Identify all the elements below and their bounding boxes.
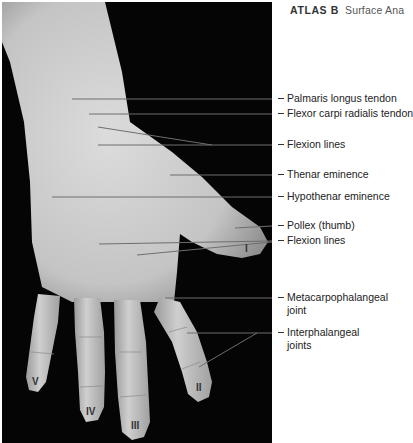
leader-tick: [278, 225, 284, 226]
page-header: ATLAS BSurface Ana: [290, 4, 404, 16]
finger-numeral-iv: IV: [86, 406, 95, 417]
leader-tick: [278, 113, 284, 114]
label-thenar-eminence: Thenar eminence: [287, 168, 369, 181]
leader-tick: [278, 240, 284, 241]
leader-tick: [278, 196, 284, 197]
section-title: Surface Ana: [345, 4, 404, 16]
hand-illustration: [2, 2, 272, 443]
label-interphalangeal-joints: Interphalangeal joints: [287, 326, 359, 351]
leader-tick: [278, 297, 284, 298]
label-hypothenar-eminence: Hypothenar eminence: [287, 190, 390, 203]
atlas-label: ATLAS B: [290, 4, 339, 16]
label-flexion-lines-palm: Flexion lines: [287, 234, 345, 247]
leader-tick: [278, 144, 284, 145]
leader-tick: [278, 174, 284, 175]
label-metacarpophalangeal-joint: Metacarpophalangeal joint: [287, 291, 388, 316]
label-flexion-lines-wrist: Flexion lines: [287, 138, 345, 151]
leader-tick: [278, 332, 284, 333]
hand-photograph: I II III IV V: [2, 2, 272, 443]
label-palmaris-longus-tendon: Palmaris longus tendon: [287, 92, 397, 105]
finger-numeral-i: I: [245, 243, 248, 254]
label-line-1: Metacarpophalangeal: [287, 291, 388, 304]
label-line-1: Interphalangeal: [287, 326, 359, 339]
label-flexor-carpi-radialis-tendon: Flexor carpi radialis tendon: [287, 107, 413, 120]
label-pollex-thumb: Pollex (thumb): [287, 219, 355, 232]
finger-numeral-iii: III: [131, 420, 139, 431]
leader-tick: [278, 98, 284, 99]
label-line-2: joint: [287, 304, 388, 317]
finger-numeral-ii: II: [196, 382, 202, 393]
label-line-2: joints: [287, 339, 359, 352]
finger-numeral-v: V: [32, 376, 39, 387]
